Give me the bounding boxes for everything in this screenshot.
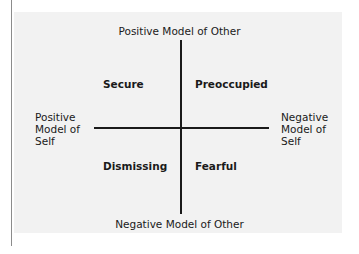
axis-label-right-line-1: Negative <box>281 111 341 123</box>
axis-label-bottom: Negative Model of Other <box>0 218 359 230</box>
quadrant-secure: Secure <box>103 78 144 90</box>
quadrant-dismissing: Dismissing <box>103 160 167 172</box>
axis-label-left: Positive Model of Self <box>35 111 95 147</box>
horizontal-axis-line <box>94 127 269 129</box>
axis-label-left-line-1: Positive <box>35 111 95 123</box>
axis-label-top: Positive Model of Other <box>0 25 359 37</box>
quadrant-preoccupied: Preoccupied <box>195 78 268 90</box>
axis-label-right-line-2: Model of <box>281 123 341 135</box>
axis-label-left-line-2: Model of <box>35 123 95 135</box>
axis-label-left-line-3: Self <box>35 135 95 147</box>
axis-label-right: Negative Model of Self <box>281 111 341 147</box>
axis-label-right-line-3: Self <box>281 135 341 147</box>
quadrant-fearful: Fearful <box>195 160 237 172</box>
